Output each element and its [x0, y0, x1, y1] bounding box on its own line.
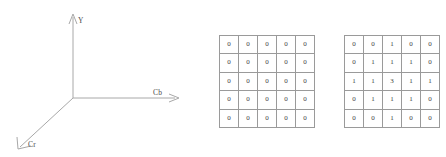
matrix-cell-3-1: 1 [364, 91, 383, 109]
matrix-cell-1-1: 1 [364, 54, 383, 72]
axis-label-y: Y [78, 16, 84, 25]
matrix-cell-2-0: 1 [345, 72, 364, 90]
matrix-cell-0-3: 0 [277, 36, 296, 54]
matrix-cell-1-2: 1 [383, 54, 402, 72]
matrix-cell-1-3: 0 [277, 54, 296, 72]
kernel-matrix: 0010001110113110111000100 [344, 35, 440, 128]
ycbcr-axes-diagram: Y Cb Cr [0, 0, 200, 157]
matrix-cell-0-4: 0 [421, 36, 440, 54]
matrix-row: 01110 [345, 54, 440, 72]
matrix-cell-1-3: 1 [402, 54, 421, 72]
matrix-row: 00000 [220, 72, 315, 90]
zero-matrix: 0000000000000000000000000 [219, 35, 315, 128]
cr-axis [17, 98, 73, 149]
matrix-cell-3-3: 0 [277, 91, 296, 109]
matrix-cell-3-0: 0 [345, 91, 364, 109]
matrix-cell-4-1: 0 [239, 109, 258, 127]
matrix-cell-4-1: 0 [364, 109, 383, 127]
matrix-cell-1-2: 0 [258, 54, 277, 72]
matrix-cell-0-0: 0 [220, 36, 239, 54]
matrix-cell-0-1: 0 [364, 36, 383, 54]
matrix-cell-2-1: 0 [239, 72, 258, 90]
matrix-cell-4-3: 0 [277, 109, 296, 127]
matrix-cell-1-1: 0 [239, 54, 258, 72]
matrix-row: 00000 [220, 54, 315, 72]
matrix-cell-3-0: 0 [220, 91, 239, 109]
matrix-cell-4-2: 1 [383, 109, 402, 127]
matrix-cell-2-3: 0 [277, 72, 296, 90]
matrix-row: 00100 [345, 36, 440, 54]
matrix-cell-2-0: 0 [220, 72, 239, 90]
matrix-cell-3-4: 0 [296, 91, 315, 109]
matrix-row: 11311 [345, 72, 440, 90]
matrix-cell-4-3: 0 [402, 109, 421, 127]
matrix-cell-3-4: 0 [421, 91, 440, 109]
kernel-matrix-body: 0010001110113110111000100 [345, 36, 440, 128]
matrix-cell-3-2: 0 [258, 91, 277, 109]
matrix-cell-2-4: 0 [296, 72, 315, 90]
matrix-cell-4-4: 0 [296, 109, 315, 127]
matrix-row: 01110 [345, 91, 440, 109]
matrix-cell-0-2: 0 [258, 36, 277, 54]
matrix-cell-1-4: 0 [296, 54, 315, 72]
matrix-cell-3-1: 0 [239, 91, 258, 109]
matrix-cell-2-2: 3 [383, 72, 402, 90]
matrix-cell-0-2: 1 [383, 36, 402, 54]
zero-matrix-body: 0000000000000000000000000 [220, 36, 315, 128]
matrix-cell-2-1: 1 [364, 72, 383, 90]
matrix-cell-1-0: 0 [345, 54, 364, 72]
matrix-cell-0-1: 0 [239, 36, 258, 54]
matrix-row: 00000 [220, 109, 315, 127]
matrix-cell-3-3: 1 [402, 91, 421, 109]
matrix-cell-4-4: 0 [421, 109, 440, 127]
matrix-cell-0-0: 0 [345, 36, 364, 54]
matrix-row: 00100 [345, 109, 440, 127]
matrix-cell-4-0: 0 [345, 109, 364, 127]
matrix-row: 00000 [220, 36, 315, 54]
matrix-cell-2-2: 0 [258, 72, 277, 90]
matrix-cell-3-2: 1 [383, 91, 402, 109]
matrix-cell-2-3: 1 [402, 72, 421, 90]
cb-axis [73, 94, 179, 102]
matrix-cell-1-0: 0 [220, 54, 239, 72]
axes-svg [0, 0, 200, 157]
matrix-cell-4-0: 0 [220, 109, 239, 127]
axis-label-cb: Cb [153, 88, 162, 97]
axis-label-cr: Cr [28, 140, 36, 149]
matrix-row: 00000 [220, 91, 315, 109]
matrix-cell-1-4: 0 [421, 54, 440, 72]
matrix-cell-4-2: 0 [258, 109, 277, 127]
matrix-cell-0-4: 0 [296, 36, 315, 54]
matrix-cell-0-3: 0 [402, 36, 421, 54]
figure-canvas: Y Cb Cr 0000000000000000000000000 001000… [0, 0, 446, 157]
y-axis [69, 14, 77, 98]
matrix-cell-2-4: 1 [421, 72, 440, 90]
